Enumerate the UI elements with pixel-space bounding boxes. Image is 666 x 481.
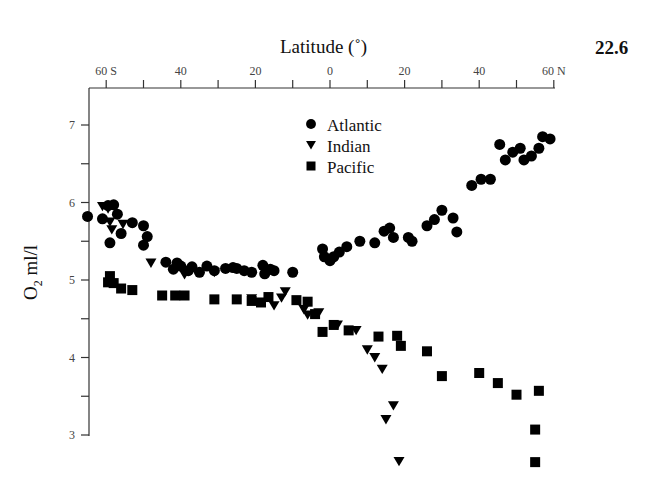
data-point [232, 294, 242, 304]
data-point [117, 220, 128, 229]
series-pacific [103, 271, 544, 467]
data-point [436, 205, 447, 216]
data-point [377, 365, 388, 374]
data-point [142, 231, 153, 242]
x-tick-label: 0 [327, 64, 333, 78]
data-point [269, 301, 280, 310]
data-point [157, 291, 167, 301]
legend-marker-indian [306, 141, 316, 149]
legend-marker-atlantic [306, 119, 316, 129]
data-point [269, 265, 280, 276]
data-point [530, 457, 540, 467]
data-point [246, 267, 257, 278]
data-point [263, 292, 273, 302]
data-point [291, 295, 301, 305]
data-point [422, 346, 432, 356]
data-point [485, 174, 496, 185]
data-point [354, 236, 365, 247]
data-point [474, 368, 484, 378]
legend-label-indian: Indian [327, 137, 371, 156]
data-point [533, 143, 544, 154]
legend-marker-pacific [307, 162, 316, 171]
axes: 60 S40200204060 N34567 [69, 64, 566, 442]
data-point [380, 415, 391, 424]
data-point [515, 143, 526, 154]
data-point [394, 457, 405, 466]
data-point [209, 294, 219, 304]
data-point [329, 320, 339, 330]
data-point [396, 341, 406, 351]
data-point [451, 226, 462, 237]
data-point [369, 237, 380, 248]
data-point [512, 390, 522, 400]
data-point [392, 331, 402, 341]
x-tick-label: 20 [249, 64, 261, 78]
data-point [429, 214, 440, 225]
data-point [145, 259, 156, 268]
x-tick-label: 60 N [542, 64, 566, 78]
series-atlantic [82, 131, 556, 279]
data-point [138, 220, 149, 231]
scatter-plot: 60 S40200204060 N34567 AtlanticIndianPac… [0, 0, 666, 481]
data-point [127, 285, 137, 295]
legend-label-pacific: Pacific [327, 158, 375, 177]
data-point [341, 241, 352, 252]
data-point [344, 325, 354, 335]
data-point [388, 401, 399, 410]
x-tick-label: 40 [473, 64, 485, 78]
data-point [407, 236, 418, 247]
legend: AtlanticIndianPacific [306, 116, 382, 177]
data-point [180, 291, 190, 301]
data-point [466, 180, 477, 191]
x-tick-label: 20 [399, 64, 411, 78]
data-point [373, 332, 383, 342]
data-point [369, 353, 380, 362]
x-tick-label: 40 [175, 64, 187, 78]
data-point [127, 217, 138, 228]
y-tick-label: 5 [69, 273, 75, 287]
y-tick-label: 6 [69, 196, 75, 210]
x-tick-label: 60 S [95, 64, 117, 78]
data-point [545, 133, 556, 144]
data-point [534, 386, 544, 396]
data-point [310, 309, 320, 319]
data-points [82, 131, 556, 467]
data-point [388, 232, 399, 243]
data-point [530, 425, 540, 435]
data-point [247, 296, 257, 306]
data-point [116, 228, 127, 239]
y-tick-label: 7 [69, 118, 75, 132]
data-point [82, 211, 93, 222]
data-point [493, 378, 503, 388]
data-point [116, 284, 126, 294]
data-point [437, 371, 447, 381]
y-tick-label: 4 [69, 351, 75, 365]
data-point [170, 291, 180, 301]
data-point [104, 237, 115, 248]
data-point [318, 327, 328, 337]
legend-label-atlantic: Atlantic [327, 116, 382, 135]
data-point [448, 213, 459, 224]
data-point [494, 139, 505, 150]
figure: Latitude (˚) 22.6 O2 ml/l 60 S4020020406… [0, 0, 666, 481]
y-tick-label: 3 [69, 428, 75, 442]
data-point [303, 297, 313, 307]
data-point [287, 267, 298, 278]
